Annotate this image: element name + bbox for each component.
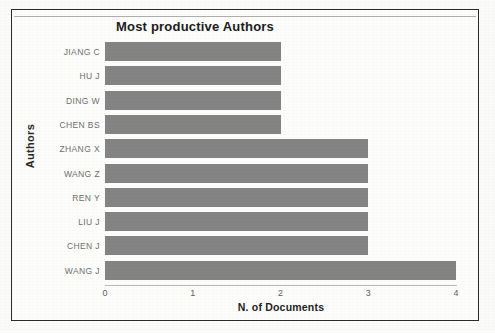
y-axis-tick-label: JIANG C: [64, 47, 100, 57]
bar-row: [105, 236, 456, 255]
bar-row: [105, 115, 456, 134]
x-axis-tick-label: 0: [102, 288, 107, 298]
bar: [105, 91, 281, 110]
plot-area: [105, 40, 456, 285]
bar: [105, 236, 368, 255]
y-axis-tick-label: WANG Z: [64, 169, 100, 179]
scanned-page: Most productive Authors Authors JIANG CH…: [0, 0, 495, 333]
x-axis-tick-label: 3: [366, 288, 371, 298]
bar: [105, 115, 281, 134]
bar: [105, 42, 281, 61]
y-axis-tick-label: LIU J: [78, 217, 100, 227]
y-axis-tick-label: HU J: [80, 71, 101, 81]
y-axis-tick-label: ZHANG X: [59, 144, 100, 154]
bar: [105, 164, 368, 183]
bar: [105, 261, 456, 280]
bar: [105, 66, 281, 85]
bar-row: [105, 139, 456, 158]
bar: [105, 212, 368, 231]
bar-row: [105, 261, 456, 280]
y-axis-tick-label: CHEN J: [67, 241, 100, 251]
chart-title: Most productive Authors: [95, 19, 295, 34]
x-axis-tick-label: 1: [190, 288, 195, 298]
bar: [105, 139, 368, 158]
x-axis-tick-label: 4: [453, 288, 458, 298]
x-axis-line: [105, 285, 457, 286]
bar-row: [105, 212, 456, 231]
y-axis-tick-labels: JIANG CHU JDING WCHEN BSZHANG XWANG ZREN…: [30, 40, 100, 285]
y-axis-tick-label: WANG J: [65, 266, 100, 276]
bar-row: [105, 164, 456, 183]
y-axis-tick-label: REN Y: [72, 193, 100, 203]
y-axis-tick-label: DING W: [66, 96, 100, 106]
bar-row: [105, 42, 456, 61]
x-axis-title: N. of Documents: [105, 301, 457, 313]
bar-row: [105, 66, 456, 85]
x-axis-tick-label: 2: [278, 288, 283, 298]
title-top-rule: [14, 16, 476, 17]
bar: [105, 188, 368, 207]
bar-row: [105, 188, 456, 207]
y-axis-tick-label: CHEN BS: [59, 120, 100, 130]
bar-row: [105, 91, 456, 110]
